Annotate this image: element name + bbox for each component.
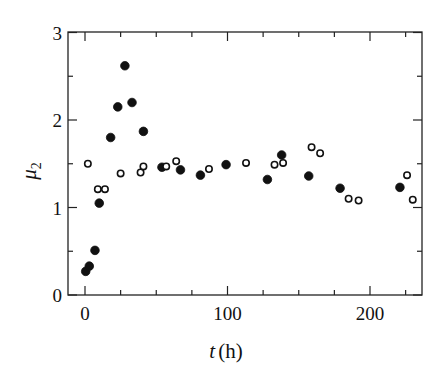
scatter-chart: 01002000123 t(h) μ2 bbox=[0, 0, 447, 372]
filled-circle-point bbox=[336, 184, 345, 193]
open-circle-point bbox=[140, 163, 146, 169]
filled-circle-point bbox=[85, 262, 94, 271]
tick-labels: 01002000123 bbox=[53, 23, 385, 325]
filled-circle-point bbox=[121, 61, 130, 70]
filled-circle-point bbox=[176, 166, 185, 175]
filled-circle-point bbox=[222, 160, 231, 169]
open-circle-point bbox=[163, 163, 169, 169]
filled-circle-point bbox=[113, 103, 122, 112]
open-circle-point bbox=[95, 186, 101, 192]
x-tick-label: 100 bbox=[213, 303, 242, 324]
open-circle-point bbox=[85, 161, 91, 167]
x-tick-label: 0 bbox=[80, 303, 90, 324]
y-tick-label: 1 bbox=[53, 198, 63, 219]
open-circle-point bbox=[308, 144, 314, 150]
filled-circle-point bbox=[277, 151, 286, 160]
open-circle-point bbox=[410, 196, 416, 202]
open-circle-point bbox=[355, 197, 361, 203]
filled-circle-point bbox=[304, 172, 313, 181]
open-circle-point bbox=[345, 196, 351, 202]
open-circle-point bbox=[117, 170, 123, 176]
open-circle-point bbox=[102, 186, 108, 192]
filled-circle-point bbox=[106, 133, 115, 142]
y-tick-label: 3 bbox=[53, 23, 63, 44]
open-circle-point bbox=[243, 160, 249, 166]
x-tick-label: 200 bbox=[356, 303, 385, 324]
data-points bbox=[81, 61, 416, 275]
filled-circle-point bbox=[263, 175, 272, 184]
y-axis-label: μ2 bbox=[17, 162, 44, 181]
y-tick-label: 0 bbox=[53, 285, 63, 306]
open-circle-point bbox=[317, 150, 323, 156]
filled-circle-point bbox=[95, 199, 104, 208]
open-circle-point bbox=[173, 158, 179, 164]
open-circle-point bbox=[404, 172, 410, 178]
filled-circle-point bbox=[139, 127, 148, 136]
filled-circle-point bbox=[396, 183, 405, 192]
x-axis-label: t(h) bbox=[209, 339, 242, 363]
filled-circle-point bbox=[128, 98, 137, 107]
open-circle-point bbox=[271, 161, 277, 167]
y-tick-label: 2 bbox=[53, 110, 63, 131]
filled-circle-point bbox=[196, 171, 205, 180]
open-circle-point bbox=[206, 166, 212, 172]
filled-circle-point bbox=[91, 246, 100, 255]
open-circle-point bbox=[280, 160, 286, 166]
